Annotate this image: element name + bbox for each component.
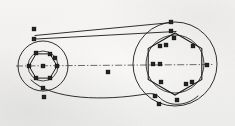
grip-right-top-inner[interactable] <box>169 29 173 33</box>
grip-left-hex-top-left[interactable] <box>34 51 38 55</box>
selection-grips[interactable] <box>27 20 209 106</box>
grip-right-hex-upper-left2[interactable] <box>164 43 168 47</box>
grip-right-top-outer[interactable] <box>169 20 173 24</box>
grip-right-hex-bottom[interactable] <box>175 98 179 102</box>
grip-left-top-inner[interactable] <box>32 37 36 41</box>
grip-right-circle-right[interactable] <box>205 63 209 67</box>
cad-drawing <box>0 0 235 126</box>
grip-right-hex-lower-left[interactable] <box>159 80 163 84</box>
grip-mid-axis[interactable] <box>106 70 110 74</box>
grip-left-hex-bottom-right[interactable] <box>48 76 52 80</box>
grip-left-hex-left[interactable] <box>27 64 31 68</box>
grip-right-bottom-body2[interactable] <box>157 102 161 106</box>
grip-right-hex-center[interactable] <box>158 62 162 66</box>
grip-left-top-outer[interactable] <box>32 27 36 31</box>
right-boss[interactable] <box>133 22 217 106</box>
grip-right-hex-lower-right[interactable] <box>190 80 194 84</box>
body-bottom-edge[interactable] <box>31 80 159 98</box>
grip-right-circle-left[interactable] <box>151 62 155 66</box>
axis-centerline[interactable] <box>16 65 213 67</box>
grip-left-hex-center[interactable] <box>41 64 45 68</box>
grip-right-hex-upper-right[interactable] <box>191 44 195 48</box>
grip-left-circle-right[interactable] <box>55 64 59 68</box>
grip-left-bottom-far[interactable] <box>42 95 46 99</box>
grip-left-bottom-outer[interactable] <box>41 86 45 90</box>
grip-left-hex-bottom-left[interactable] <box>34 76 38 80</box>
grip-left-hex-right-upper[interactable] <box>53 56 57 60</box>
grip-right-bottom-body[interactable] <box>153 94 157 98</box>
grip-right-hex-lower-right2[interactable] <box>184 82 188 86</box>
grip-right-hex-upper-left[interactable] <box>158 44 162 48</box>
grip-left-hex-top-right[interactable] <box>48 52 52 56</box>
grip-right-hex-apex[interactable] <box>172 36 176 40</box>
body-top-inner-edge[interactable] <box>36 32 176 40</box>
cad-drawing-viewport: Connecting Rod / Link Plate Plan View 28 <box>0 0 235 126</box>
